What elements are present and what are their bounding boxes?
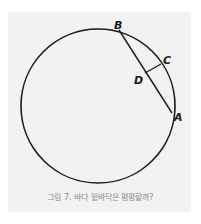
segment-DC [145,64,161,73]
point-label-a: A [173,111,183,124]
point-label-b: B [114,19,122,32]
earth-circle [21,29,175,183]
figure-caption: 그림 7. 바다 밑바닥은 평평할까? [0,191,201,202]
point-label-d: D [134,74,143,87]
point-label-c: C [163,54,171,67]
chord-BA [119,30,172,113]
